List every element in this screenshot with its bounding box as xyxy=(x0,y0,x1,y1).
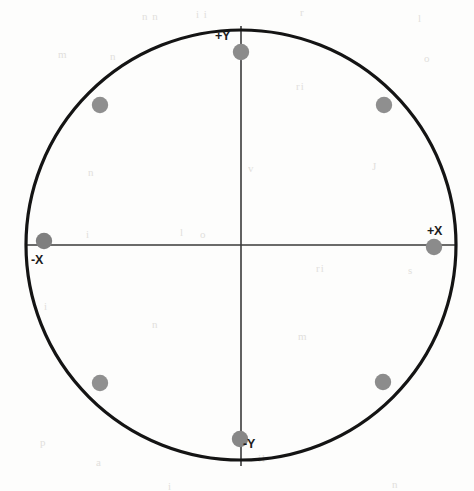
axis-label-plus-x: +X xyxy=(427,224,442,238)
diagram-canvas: +Y markerupper-leftupper-right-X marker+… xyxy=(0,0,474,491)
point-upper-right: upper-right xyxy=(376,97,392,113)
point-lower-left: lower-left xyxy=(92,375,108,391)
axis-label-minus-x: -X xyxy=(31,253,43,267)
axis-label-plus-y: +Y xyxy=(215,29,230,43)
point-right: +X marker xyxy=(426,239,442,255)
point-left: -X marker xyxy=(36,233,52,249)
axis-label-minus-y: -Y xyxy=(243,437,255,451)
figure-container: n ni irlmnrioJnvilorisinmpailni +Y marke… xyxy=(0,0,474,491)
point-top: +Y marker xyxy=(233,44,249,60)
point-upper-left: upper-left xyxy=(92,97,108,113)
point-lower-right: lower-right xyxy=(375,374,391,390)
